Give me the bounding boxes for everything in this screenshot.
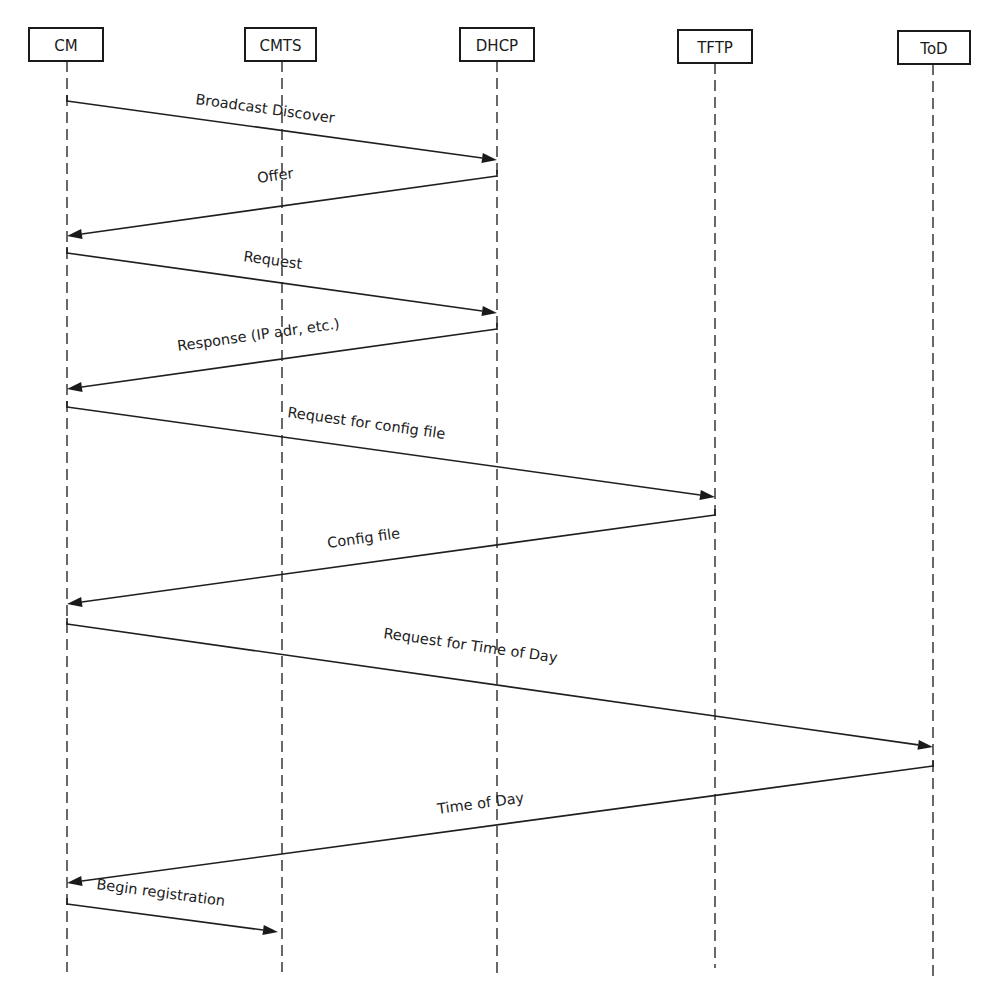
arrowhead-icon	[67, 382, 83, 392]
arrowhead-icon	[699, 490, 715, 500]
message-line	[82, 766, 933, 881]
message-label: Begin registration	[96, 876, 227, 909]
message-line	[82, 176, 497, 234]
participant-cm: CM	[29, 28, 103, 61]
message-arrow: Begin registration	[67, 876, 278, 935]
arrowhead-icon	[481, 153, 497, 163]
participant-label: ToD	[919, 40, 947, 58]
message-label: Request for config file	[287, 404, 447, 442]
arrowhead-icon	[481, 306, 497, 316]
participant-dhcp: DHCP	[460, 28, 534, 61]
arrowhead-icon	[67, 597, 83, 607]
sequence-diagram: CMCMTSDHCPTFTPToD Broadcast DiscoverOffe…	[0, 0, 996, 1000]
arrowhead-icon	[917, 740, 933, 750]
arrowhead-icon	[262, 925, 278, 935]
participant-label: DHCP	[476, 37, 518, 55]
message-arrow: Time of Day	[67, 760, 933, 886]
messages: Broadcast DiscoverOfferRequestResponse (…	[67, 91, 933, 935]
message-label: Config file	[326, 525, 401, 551]
participant-tftp: TFTP	[678, 30, 752, 63]
message-label: Time of Day	[435, 789, 525, 817]
participant-label: CM	[54, 37, 77, 55]
participant-tod: ToD	[898, 31, 970, 64]
message-label: Request for Time of Day	[383, 625, 559, 666]
message-arrow: Request for Time of Day	[67, 618, 933, 750]
message-label: Request	[243, 248, 304, 272]
lifelines	[67, 61, 933, 977]
arrowhead-icon	[67, 229, 83, 239]
arrowhead-icon	[67, 876, 83, 886]
participants: CMCMTSDHCPTFTPToD	[29, 28, 970, 64]
message-arrow: Config file	[67, 509, 715, 607]
message-line	[67, 904, 263, 930]
message-label: Response (IP adr, etc.)	[176, 316, 340, 354]
participant-label: TFTP	[696, 39, 733, 57]
message-arrow: Request for config file	[67, 401, 715, 500]
participant-label: CMTS	[259, 37, 301, 55]
message-label: Offer	[256, 165, 294, 186]
participant-cmts: CMTS	[245, 28, 316, 61]
